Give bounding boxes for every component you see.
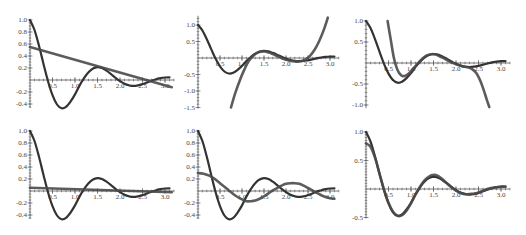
y-tick-label: 0.5 [354, 157, 363, 165]
x-tick-label: 1.5 [260, 60, 269, 68]
y-tick-label: -0.2 [16, 88, 28, 96]
y-tick-label: 0.8 [18, 28, 27, 36]
approximation-curve [30, 188, 172, 193]
y-tick-label: -0.4 [16, 100, 28, 108]
y-tick-label: -1.5 [184, 104, 196, 112]
x-tick-label: 3.0 [497, 65, 506, 73]
plot-panel-1: 0.51.01.52.02.53.01.00.80.60.40.2-0.2-0.… [16, 16, 174, 108]
y-tick-label: -0.4 [184, 211, 196, 219]
plot-panel-4: 0.51.01.52.02.53.01.00.80.60.40.2-0.2-0.… [16, 127, 174, 219]
plot-panel-5: 0.51.01.52.02.53.01.00.80.60.40.2-0.2-0.… [184, 127, 339, 219]
x-tick-label: 3.0 [161, 193, 170, 201]
plot-panel-2: 0.51.01.52.02.53.01.00.5-0.5-1.0-1.5 [184, 16, 339, 112]
y-tick-label: 0.4 [18, 163, 27, 171]
plot-panel-6: 0.51.01.52.02.53.01.00.5-0.5 [352, 128, 510, 222]
y-tick-label: -0.2 [16, 199, 28, 207]
y-tick-label: 0.8 [186, 139, 195, 147]
y-tick-label: 0.6 [18, 151, 27, 159]
y-tick-label: 0.5 [354, 38, 363, 46]
y-tick-label: 0.2 [186, 175, 195, 183]
function-curve [198, 131, 334, 219]
function-curve [30, 131, 170, 219]
x-tick-label: 1.5 [429, 191, 438, 199]
y-tick-label: 0.2 [18, 64, 27, 72]
y-tick-label: 0.6 [186, 151, 195, 159]
y-tick-label: 1.0 [186, 21, 195, 29]
y-tick-label: 1.0 [18, 16, 27, 24]
y-tick-label: 0.8 [18, 139, 27, 147]
approximation-curve [366, 143, 506, 216]
y-tick-label: 1.0 [18, 127, 27, 135]
y-tick-label: -1.0 [352, 101, 364, 109]
x-tick-label: 1.5 [93, 82, 102, 90]
y-tick-label: -0.2 [184, 199, 196, 207]
x-tick-label: 1.5 [429, 65, 438, 73]
plot-panel-3: 0.51.01.52.02.53.01.00.5-0.5-1.0 [352, 17, 510, 109]
x-tick-label: 3.0 [497, 191, 506, 199]
y-tick-label: 1.0 [354, 17, 363, 25]
y-tick-label: 1.0 [354, 128, 363, 136]
x-tick-label: 1.5 [93, 193, 102, 201]
x-tick-label: 3.0 [326, 60, 335, 68]
y-tick-label: -0.4 [16, 211, 28, 219]
y-tick-label: 0.4 [186, 163, 195, 171]
plot-grid: 0.51.01.52.02.53.01.00.80.60.40.2-0.2-0.… [0, 0, 526, 235]
y-tick-label: -0.5 [184, 71, 196, 79]
y-tick-label: -1.0 [184, 87, 196, 95]
y-tick-label: 1.0 [186, 127, 195, 135]
y-tick-label: 0.4 [18, 52, 27, 60]
y-tick-label: 0.6 [18, 40, 27, 48]
y-tick-label: -0.5 [352, 80, 364, 88]
y-tick-label: -0.5 [352, 214, 364, 222]
function-curve [366, 21, 506, 83]
y-tick-label: 0.2 [18, 175, 27, 183]
y-tick-label: 0.5 [186, 38, 195, 46]
function-curve [30, 20, 170, 108]
